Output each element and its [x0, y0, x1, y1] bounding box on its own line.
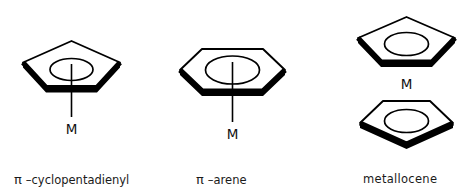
- caption-cp-pi-symbol: π: [14, 172, 22, 187]
- caption-pi-arene: π –arene: [196, 172, 247, 187]
- caption-metallocene: metallocene: [363, 172, 437, 186]
- caption-arene-pi-symbol: π: [196, 172, 204, 187]
- caption-metallocene-text: metallocene: [363, 172, 437, 186]
- mc-lower-ring-face: [360, 101, 453, 144]
- caption-arene-text: –arene: [204, 173, 246, 187]
- cp-metal-label: M: [66, 121, 78, 137]
- structure-metallocene: M: [358, 17, 455, 149]
- organometallic-ligand-diagram: M M M: [0, 0, 466, 195]
- caption-cp-text: –cyclopentadienyl: [22, 173, 129, 187]
- structure-pi-cyclopentadienyl: M: [23, 41, 120, 137]
- metallocene-lower-ring: [360, 101, 453, 149]
- arene-metal-label: M: [227, 126, 239, 142]
- metallocene-metal-label: M: [401, 76, 413, 92]
- caption-pi-cyclopentadienyl: π –cyclopentadienyl: [14, 172, 129, 187]
- metallocene-upper-ring: [358, 17, 455, 67]
- structure-pi-arene: M: [180, 49, 285, 142]
